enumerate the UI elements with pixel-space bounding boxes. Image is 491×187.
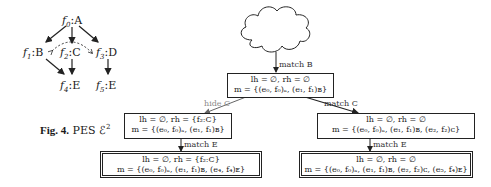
figure-caption: Fig. 4. PES ℰ2 xyxy=(40,123,110,137)
state-box-top: lh = ∅, rh = ∅ m = {(e₀, f₀)ₐ, (e₁, f₁)ʙ… xyxy=(227,73,334,98)
figure-number: Fig. 4. xyxy=(40,124,69,136)
edge-label-match-e-left: match E xyxy=(184,140,218,149)
pes-node-f3: f3:D xyxy=(96,47,117,63)
edge-label-match-b: match B xyxy=(279,60,313,69)
pes-node-f1: f1:B xyxy=(23,47,43,63)
edge-label-match-e-right: match E xyxy=(373,140,407,149)
pes-node-f0: f0:A xyxy=(62,15,82,31)
state-box-bottom-left: lh = ∅, rh = {f₂:C} m = {(e₀, f₀)ₐ, (e₁,… xyxy=(100,151,262,178)
edge-label-match-c: match C xyxy=(324,99,358,108)
state-box-mid-left: lh = ∅, rh = {f₂:C} m = {(e₀, f₀)ₐ, (e₁,… xyxy=(124,113,232,139)
pes-node-f4: f4:E xyxy=(60,80,80,96)
pes-node-f2: f2:C xyxy=(60,47,81,63)
edge-label-hide-c: hide C xyxy=(204,99,230,108)
state-box-bottom-right: lh = ∅, rh = ∅ m = {(e₀, f₀)ₐ, (e₁, f₁)ʙ… xyxy=(299,151,473,178)
pes-node-f5: f5:E xyxy=(96,80,116,96)
state-box-mid-right: lh = ∅, rh = ∅ m = {(e₀, f₀)ₐ, (e₁, f₁)ʙ… xyxy=(317,113,475,139)
cloud-shape xyxy=(241,7,310,52)
figure-title: PES ℰ xyxy=(73,124,106,137)
